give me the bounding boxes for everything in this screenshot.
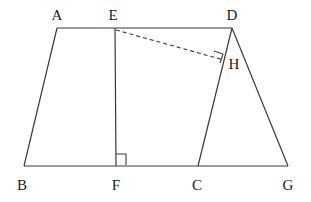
vertex-label-c: C bbox=[192, 178, 202, 193]
right-angle-mark-h bbox=[214, 51, 223, 63]
right-angle-mark-f bbox=[116, 154, 126, 165]
segment-d-g bbox=[232, 28, 288, 166]
segment-e-h bbox=[116, 30, 224, 60]
vertex-label-f: F bbox=[112, 178, 120, 193]
vertex-label-g: G bbox=[283, 178, 294, 193]
segment-d-c bbox=[198, 28, 232, 166]
vertex-label-e: E bbox=[108, 8, 117, 23]
vertex-label-a: A bbox=[52, 8, 63, 23]
geometry-canvas bbox=[0, 0, 311, 202]
vertex-label-b: B bbox=[17, 178, 27, 193]
vertex-label-d: D bbox=[227, 8, 238, 23]
segment-e-f bbox=[115, 28, 116, 166]
vertex-label-h: H bbox=[229, 57, 240, 72]
segment-a-b bbox=[24, 28, 57, 166]
geometry-figure: A E D H B F C G bbox=[0, 0, 311, 202]
